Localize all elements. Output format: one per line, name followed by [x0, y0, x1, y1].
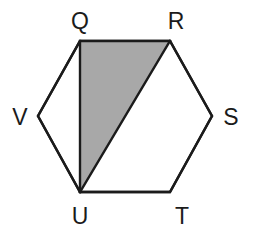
hexagon-diagram: Q R S T U V: [0, 0, 253, 242]
vertex-label-s: S: [223, 104, 238, 130]
vertex-label-t: T: [175, 203, 189, 229]
vertex-label-r: R: [168, 8, 185, 34]
vertex-label-q: Q: [71, 8, 89, 34]
vertex-label-u: U: [72, 203, 89, 229]
vertex-label-v: V: [12, 104, 28, 130]
